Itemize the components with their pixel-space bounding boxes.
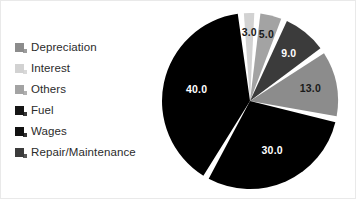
chart-legend: Depreciation Interest Others Fuel Wages … xyxy=(15,37,175,163)
pie-label-interest: 3.0 xyxy=(242,26,257,38)
legend-item-depreciation[interactable]: Depreciation xyxy=(15,37,175,58)
pie-label-depreciation: 9.0 xyxy=(281,47,296,59)
legend-label-depreciation: Depreciation xyxy=(31,42,97,54)
legend-item-others[interactable]: Others xyxy=(15,79,175,100)
pie-chart-figure: Depreciation Interest Others Fuel Wages … xyxy=(0,0,356,199)
legend-item-interest[interactable]: Interest xyxy=(15,58,175,79)
pie-label-wages: 30.0 xyxy=(262,144,283,156)
legend-item-repair-maintenance[interactable]: Repair/Maintenance xyxy=(15,142,175,163)
legend-label-repair-maintenance: Repair/Maintenance xyxy=(31,147,136,159)
legend-swatch-others xyxy=(15,85,24,94)
pie-label-fuel: 13.0 xyxy=(300,82,321,94)
legend-swatch-fuel xyxy=(15,106,24,115)
legend-swatch-wages xyxy=(15,127,24,136)
legend-swatch-depreciation xyxy=(15,43,24,52)
pie-plot-area: 3.05.09.013.030.040.0 xyxy=(157,0,347,199)
legend-label-wages: Wages xyxy=(31,126,67,138)
legend-label-others: Others xyxy=(31,84,66,96)
pie-label-others: 5.0 xyxy=(259,28,274,40)
legend-item-fuel[interactable]: Fuel xyxy=(15,100,175,121)
legend-label-fuel: Fuel xyxy=(31,105,54,117)
pie-slices xyxy=(162,13,338,189)
pie-svg: 3.05.09.013.030.040.0 xyxy=(157,0,347,199)
legend-swatch-repair-maintenance xyxy=(15,148,24,157)
legend-item-wages[interactable]: Wages xyxy=(15,121,175,142)
legend-swatch-interest xyxy=(15,64,24,73)
legend-label-interest: Interest xyxy=(31,63,70,75)
pie-label-repair-maintenance: 40.0 xyxy=(186,83,207,95)
